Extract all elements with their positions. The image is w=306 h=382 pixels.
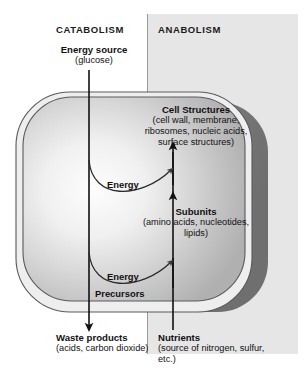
subunits-detail: (amino acids, nucleotides, lipids): [132, 217, 260, 239]
energy-source-detail: (glucose): [38, 55, 150, 66]
energy-label-upper: Energy: [107, 179, 139, 190]
anabolism-panel: [148, 14, 298, 354]
waste-products-label: Waste products (acids, carbon dioxide): [56, 332, 152, 354]
catabolism-heading: CATABOLISM: [56, 24, 124, 35]
energy-source-label: Energy source (glucose): [38, 44, 150, 66]
cell-structures-title: Cell Structures: [130, 104, 262, 115]
nutrients-detail: (source of nitrogen, sulfur, etc.): [158, 343, 278, 365]
cell-structures-detail: (cell wall, membrane, ribosomes, nucleic…: [130, 115, 262, 147]
precursors-label: Precursors: [95, 288, 145, 299]
nutrients-label: Nutrients (source of nitrogen, sulfur, e…: [158, 332, 278, 365]
metabolism-diagram: CATABOLISM ANABOLISM: [0, 0, 306, 382]
nutrients-title: Nutrients: [158, 332, 278, 343]
energy-source-title: Energy source: [38, 44, 150, 55]
cell-structures-label: Cell Structures (cell wall, membrane, ri…: [130, 104, 262, 148]
waste-products-title: Waste products: [56, 332, 152, 343]
anabolism-heading: ANABOLISM: [158, 24, 221, 35]
energy-label-lower: Energy: [107, 271, 139, 282]
waste-products-detail: (acids, carbon dioxide): [56, 343, 152, 354]
subunits-title: Subunits: [132, 206, 260, 217]
subunits-label: Subunits (amino acids, nucleotides, lipi…: [132, 206, 260, 239]
